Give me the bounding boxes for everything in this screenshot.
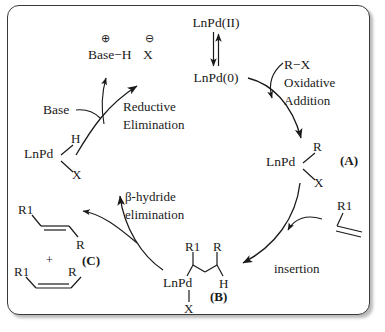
atom-h-hydride-complex: H [71,132,80,145]
label-reductive-elimination-line1: Reductive [123,100,176,113]
atom-r1-alkene-trans: R1 [18,203,33,216]
bonds-alkene-trans [32,215,78,237]
atom-r-complex-a: R [313,140,322,153]
label-lnpd-complex-a: LnPd [266,155,295,169]
atom-x-complex-a: X [314,176,323,189]
label-rx-reagent: R−X [284,58,310,72]
arrow-base-hx-out [102,78,106,124]
atom-r1-complex-b: R1 [185,240,200,253]
reaction-scheme-figure: LnPd(II) LnPd(0) ⊕ ⊖ Base−H X Base Reduc… [0,0,385,332]
label-insertion: insertion [274,262,320,275]
label-complex-a-tag: (A) [340,154,358,167]
atom-r1-alkene-cis: R1 [14,265,29,278]
label-beta-hydride-line2: elimination [125,208,184,221]
arrow-rx-reagent-in [270,63,283,98]
arrow-alkene-reagent-in [288,217,322,230]
label-lnpd-ii: LnPd(II) [192,16,239,30]
arrow-insertion [243,183,300,263]
atom-r-complex-b: R [213,240,222,253]
atom-r1-alkene-reagent: R1 [337,199,352,212]
atom-x-hydride-complex: X [72,168,81,181]
equilibrium-arrows-icon [214,32,219,66]
label-lnpd-zero: LnPd(0) [194,71,239,85]
atom-r-alkene-cis: R [68,265,77,278]
label-complex-b-tag: (B) [210,290,227,303]
label-beta-hydride-line1: β-hydride [125,190,176,203]
reaction-scheme-artwork [0,0,385,332]
charge-minus-icon: ⊖ [145,33,154,44]
label-base-reagent: Base [43,103,69,117]
label-base-h: Base−H [88,48,132,62]
label-lnpd-hydride-complex: LnPd [24,147,53,161]
line-base-reagent-in [76,110,100,118]
label-oxidative-addition-line2: Addition [284,94,330,107]
atom-r-alkene-trans: R [76,238,85,251]
label-product-c-tag: (C) [82,254,100,267]
label-halide-anion: X [143,48,153,62]
label-oxidative-addition-line1: Oxidative [284,76,335,89]
charge-plus-icon: ⊕ [101,33,110,44]
bonds-alkene-reagent [336,213,362,237]
label-plus-sign: + [46,254,53,266]
atom-x-complex-b: X [184,302,193,315]
label-lnpd-complex-b: LnPd [163,276,192,290]
label-reductive-elimination-line2: Elimination [123,118,184,131]
